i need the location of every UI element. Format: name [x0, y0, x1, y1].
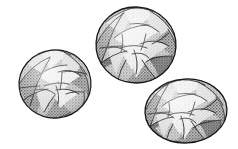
specimen-plate-canvas	[0, 0, 238, 149]
specimen-plate	[0, 0, 238, 149]
